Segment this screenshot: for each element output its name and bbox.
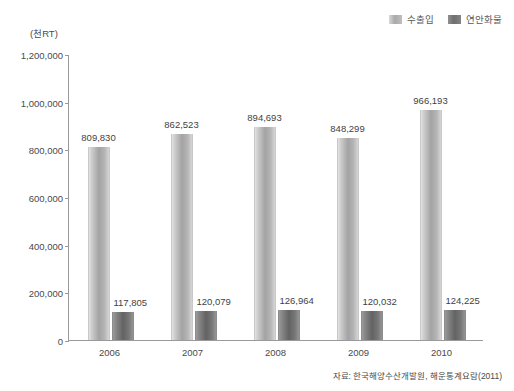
y-axis-tick-label: 600,000 xyxy=(3,193,63,204)
y-axis-tick-mark xyxy=(65,341,69,342)
bar-value-label: 120,032 xyxy=(363,296,397,307)
y-axis-tick-mark xyxy=(65,198,69,199)
bar-exports-imports xyxy=(88,147,110,340)
legend-swatch-icon xyxy=(448,15,461,24)
plot-area: 809,830117,805862,523120,079894,693126,9… xyxy=(68,55,483,341)
bar-coastal-cargo xyxy=(112,312,134,340)
bar-coastal-cargo xyxy=(361,311,383,340)
bar-group: 966,193124,225 xyxy=(420,55,466,340)
y-axis-tick-mark xyxy=(65,246,69,247)
source-note: 자료: 한국해양수산개발원, 해운통계요람(2011) xyxy=(333,369,502,381)
bar-value-label: 862,523 xyxy=(164,119,198,130)
y-axis-unit-label: (천RT) xyxy=(30,26,58,40)
bar-value-label: 117,805 xyxy=(114,297,148,308)
x-axis-tick-label: 2006 xyxy=(99,347,120,358)
y-axis-tick-label: 0 xyxy=(3,336,63,347)
legend-item-exports-imports: 수출입 xyxy=(389,12,434,26)
x-axis-tick-label: 2008 xyxy=(265,347,286,358)
bar-exports-imports xyxy=(337,138,359,340)
x-axis-tick-label: 2010 xyxy=(431,347,452,358)
bar-value-label: 126,964 xyxy=(280,295,314,306)
y-axis-tick-label: 1,200,000 xyxy=(3,50,63,61)
y-axis-tick-label: 400,000 xyxy=(3,240,63,251)
bar-value-label: 809,830 xyxy=(81,132,115,143)
x-axis-tick-label: 2007 xyxy=(182,347,203,358)
legend-swatch-icon xyxy=(389,15,402,24)
bar-value-label: 848,299 xyxy=(330,123,364,134)
bars-layer: 809,830117,805862,523120,079894,693126,9… xyxy=(69,55,483,340)
bar-exports-imports xyxy=(254,127,276,340)
y-axis-tick-mark xyxy=(65,103,69,104)
bar-value-label: 894,693 xyxy=(247,112,281,123)
legend-label: 연안화물 xyxy=(466,12,502,26)
bar-value-label: 124,225 xyxy=(446,295,480,306)
bar-group: 894,693126,964 xyxy=(254,55,300,340)
x-axis-tick-label: 2009 xyxy=(348,347,369,358)
bar-group: 809,830117,805 xyxy=(88,55,134,340)
chart-legend: 수출입 연안화물 xyxy=(389,12,502,26)
bar-group: 848,299120,032 xyxy=(337,55,383,340)
bar-exports-imports xyxy=(171,134,193,340)
y-axis-tick-label: 1,000,000 xyxy=(3,97,63,108)
bar-value-label: 120,079 xyxy=(197,296,231,307)
y-axis-tick-mark xyxy=(65,293,69,294)
bar-exports-imports xyxy=(420,110,442,340)
bar-chart-figure: 수출입 연안화물 (천RT) 809,830117,805862,523120,… xyxy=(0,0,514,391)
bar-coastal-cargo xyxy=(278,310,300,340)
y-axis-tick-label: 800,000 xyxy=(3,145,63,156)
bar-coastal-cargo xyxy=(195,311,217,340)
y-axis-tick-mark xyxy=(65,150,69,151)
bar-value-label: 966,193 xyxy=(413,95,447,106)
legend-item-coastal-cargo: 연안화물 xyxy=(448,12,502,26)
y-axis-tick-mark xyxy=(65,55,69,56)
legend-label: 수출입 xyxy=(407,12,434,26)
bar-coastal-cargo xyxy=(444,310,466,340)
y-axis-tick-label: 200,000 xyxy=(3,288,63,299)
bar-group: 862,523120,079 xyxy=(171,55,217,340)
